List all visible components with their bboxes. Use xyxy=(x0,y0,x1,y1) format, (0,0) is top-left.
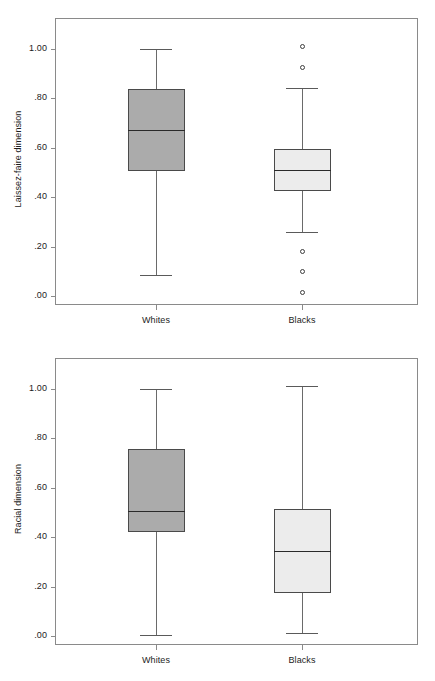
y-axis-title-racial: Racial dimension xyxy=(13,419,23,579)
plot-frame-racial xyxy=(55,358,418,645)
y-tick-mark xyxy=(51,98,55,99)
y-tick-mark xyxy=(51,247,55,248)
outlier-point xyxy=(300,269,305,274)
outlier-point xyxy=(300,44,305,49)
whisker-upper xyxy=(156,389,157,450)
x-tick-mark xyxy=(302,645,303,650)
whisker-upper xyxy=(302,386,303,509)
x-tick-label-blacks: Blacks xyxy=(252,315,352,325)
median-line xyxy=(128,511,185,512)
whisker-lower xyxy=(156,171,157,275)
outlier-point xyxy=(300,65,305,70)
x-tick-label-whites: Whites xyxy=(106,655,206,665)
y-tick-mark xyxy=(51,537,55,538)
whisker-lower xyxy=(302,593,303,633)
y-tick-label: .80 xyxy=(7,92,47,102)
y-tick-label: .00 xyxy=(7,290,47,300)
figure-container: Laissez-faire dimension1.00.80.60.40.20.… xyxy=(0,0,435,681)
y-tick-label: .40 xyxy=(7,531,47,541)
chart-panel-laissez-faire: Laissez-faire dimension1.00.80.60.40.20.… xyxy=(0,0,435,340)
chart-panel-racial: Racial dimension1.00.80.60.40.20.00White… xyxy=(0,340,435,680)
box-whites[interactable] xyxy=(128,449,185,532)
y-tick-mark xyxy=(51,197,55,198)
plot-frame-laissez-faire xyxy=(55,18,418,305)
y-tick-mark xyxy=(51,636,55,637)
y-tick-label: .00 xyxy=(7,630,47,640)
whisker-cap-lower xyxy=(286,232,318,233)
median-line xyxy=(128,130,185,131)
y-tick-label: .20 xyxy=(7,241,47,251)
whisker-upper xyxy=(156,49,157,90)
y-tick-mark xyxy=(51,438,55,439)
y-axis-title-laissez-faire: Laissez-faire dimension xyxy=(13,79,23,239)
y-tick-label: 1.00 xyxy=(7,43,47,53)
outlier-point xyxy=(300,290,305,295)
y-tick-label: .60 xyxy=(7,482,47,492)
y-tick-mark xyxy=(51,296,55,297)
y-tick-label: .20 xyxy=(7,581,47,591)
whisker-cap-lower xyxy=(140,275,172,276)
whisker-cap-upper xyxy=(140,389,172,390)
median-line xyxy=(274,170,331,171)
x-tick-mark xyxy=(156,305,157,310)
y-tick-mark xyxy=(51,148,55,149)
whisker-upper xyxy=(302,88,303,149)
x-tick-label-whites: Whites xyxy=(106,315,206,325)
y-tick-label: 1.00 xyxy=(7,383,47,393)
y-tick-label: .60 xyxy=(7,142,47,152)
whisker-lower xyxy=(156,532,157,635)
whisker-cap-lower xyxy=(286,633,318,634)
whisker-lower xyxy=(302,191,303,232)
median-line xyxy=(274,551,331,552)
x-tick-mark xyxy=(302,305,303,310)
y-tick-mark xyxy=(51,488,55,489)
y-tick-mark xyxy=(51,389,55,390)
outlier-point xyxy=(300,249,305,254)
y-tick-label: .40 xyxy=(7,191,47,201)
x-tick-mark xyxy=(156,645,157,650)
y-tick-mark xyxy=(51,49,55,50)
y-tick-mark xyxy=(51,587,55,588)
y-tick-label: .80 xyxy=(7,432,47,442)
x-tick-label-blacks: Blacks xyxy=(252,655,352,665)
whisker-cap-upper xyxy=(140,49,172,50)
whisker-cap-upper xyxy=(286,88,318,89)
whisker-cap-lower xyxy=(140,635,172,636)
whisker-cap-upper xyxy=(286,386,318,387)
